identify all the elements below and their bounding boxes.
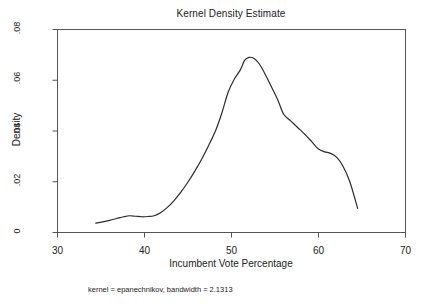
y-tick-label-text: 0 [12,228,22,233]
axes-frame [58,30,406,233]
plot-frame [58,30,406,233]
density-curve-0 [96,57,358,223]
x-tick-label-30: 30 [43,245,73,256]
axis-ticks [53,30,406,238]
y-axis-label: Density [11,90,22,170]
x-tick-label-50: 50 [217,245,247,256]
chart-footnote: kernel = epanechnikov, bandwidth = 2.131… [88,285,233,294]
kernel-density-figure: Kernel Density Estimate 3040506070 0.02.… [0,0,426,306]
x-tick-label-70: 70 [391,245,421,256]
density-curve-group [96,57,358,223]
y-tick-label-0: 0 [0,226,34,236]
y-tick-label-p06: .06 [0,73,34,83]
x-tick-label-60: 60 [304,245,334,256]
x-tick-label-40: 40 [130,245,160,256]
y-tick-label-p02: .02 [0,175,34,185]
y-tick-label-text: .08 [12,21,22,34]
y-tick-label-text: .06 [12,72,22,85]
y-tick-label-text: .02 [12,173,22,186]
x-axis-label: Incumbent Vote Percentage [57,258,405,269]
y-tick-label-p08: .08 [0,23,34,33]
